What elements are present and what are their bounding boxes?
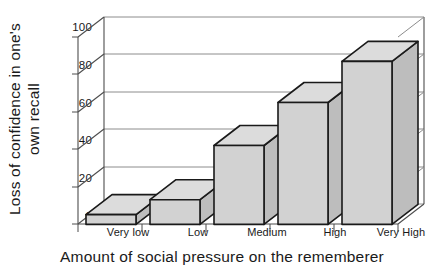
chart-figure: Loss of confidence in one's own recall 1… [0,0,444,275]
y-axis-ticks [72,37,78,224]
axis-depth-wall [78,17,104,224]
bar-very-high [342,41,418,224]
plot-area: .gl{stroke:#8c8c8c;stroke-width:1;fill:n… [0,0,444,275]
